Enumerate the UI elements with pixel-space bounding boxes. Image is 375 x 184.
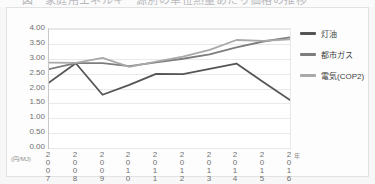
plot-area <box>48 28 291 149</box>
y-axis-tick-label: 0.50 <box>29 128 45 136</box>
y-axis: 4.003.503.002.502.001.501.000.500.00 <box>9 28 45 149</box>
x-axis: 2007200820092010201120122013201420152016 <box>48 151 291 184</box>
legend-item[interactable]: 都市ガス <box>300 46 372 63</box>
x-axis-tick-label: 2014 <box>228 151 242 183</box>
y-axis-tick-label: 1.50 <box>29 98 45 106</box>
legend-swatch-icon <box>300 32 316 35</box>
y-axis-tick-label: 2.00 <box>29 84 45 92</box>
chart-figure: 図 家庭用エネルギー源別の単位熱量あたり価格の推移 4.003.503.002.… <box>0 0 375 184</box>
y-axis-tick-label: 1.00 <box>29 113 45 121</box>
legend-item-label: 灯油 <box>321 28 337 39</box>
x-axis-end-marker-text: 年 <box>293 153 301 159</box>
y-axis-tick-label: 3.50 <box>29 39 45 47</box>
y-axis-unit-label: (円/MJ) <box>11 154 31 163</box>
legend-item-label: 電気(COP2) <box>321 70 364 81</box>
series-line <box>49 37 290 69</box>
x-axis-tick-label: 2011 <box>148 151 162 183</box>
x-axis-tick-label: 2015 <box>255 151 269 183</box>
x-axis-tick-label: 2010 <box>121 151 135 183</box>
x-axis-tick-label: 2009 <box>95 151 109 183</box>
legend-swatch-icon <box>300 74 316 77</box>
legend-item[interactable]: 灯油 <box>300 25 372 42</box>
figure-caption-cropped: 図 家庭用エネルギー源別の単位熱量あたり価格の推移 <box>0 0 375 7</box>
x-axis-end-marker: 年 <box>293 153 301 159</box>
x-axis-tick-label: 2012 <box>175 151 189 183</box>
y-axis-tick-label: 4.00 <box>29 24 45 32</box>
x-axis-tick-label: 2013 <box>202 151 216 183</box>
y-axis-tick-label: 0.00 <box>29 143 45 151</box>
x-axis-tick-label: 2008 <box>68 151 82 183</box>
legend-swatch-icon <box>300 53 316 56</box>
y-axis-tick-label: 3.00 <box>29 54 45 62</box>
y-axis-tick-label: 2.50 <box>29 69 45 77</box>
series-lines <box>49 29 290 148</box>
figure-caption-text: 図 家庭用エネルギー源別の単位熱量あたり価格の推移 <box>22 0 307 7</box>
x-axis-tick-label: 2007 <box>41 151 55 183</box>
legend-item-label: 都市ガス <box>321 49 353 60</box>
gridline <box>49 148 290 149</box>
chart-legend: 灯油都市ガス電気(COP2) <box>300 25 372 88</box>
chart-card: 4.003.503.002.502.001.501.000.500.00 (円/… <box>6 7 369 177</box>
series-line <box>49 63 290 100</box>
legend-item[interactable]: 電気(COP2) <box>300 67 372 84</box>
